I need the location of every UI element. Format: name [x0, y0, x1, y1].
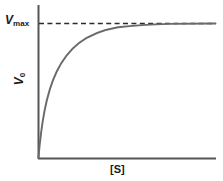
vmax-subscript: max: [13, 19, 29, 28]
vmax-symbol: V: [5, 13, 13, 27]
saturation-curve: [38, 24, 215, 159]
plot-canvas: [0, 0, 223, 181]
michaelis-menten-figure: Vmax V0 [S]: [0, 0, 223, 181]
y-axis-symbol: V: [12, 77, 26, 85]
x-axis-label: [S]: [110, 164, 125, 175]
y-axis-label: V0: [13, 63, 27, 95]
y-axis-subscript: 0: [18, 73, 27, 77]
vmax-label: Vmax: [5, 14, 29, 28]
